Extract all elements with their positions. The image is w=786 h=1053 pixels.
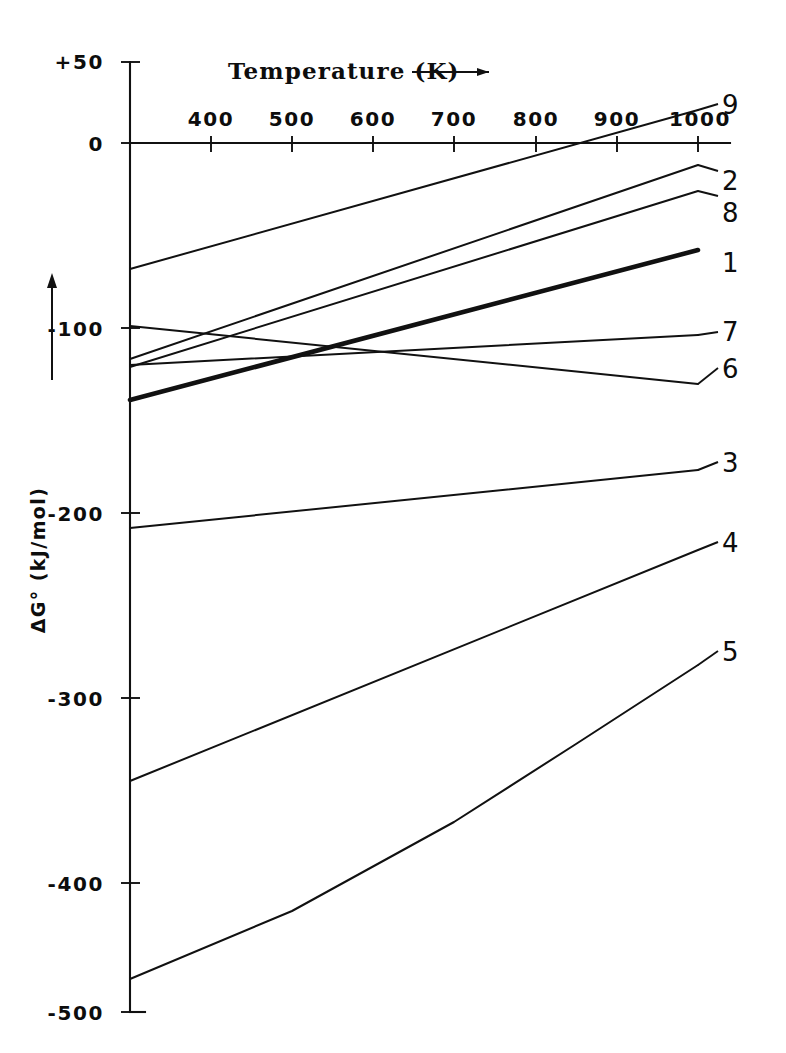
series-label-1: 1 (722, 248, 739, 278)
x-tick-label-4: 800 (513, 107, 560, 131)
series-label-4: 4 (722, 528, 739, 558)
series-label-3: 3 (722, 448, 739, 478)
curve-series-1 (130, 250, 698, 400)
y-tick-label-2: -100 (48, 317, 104, 341)
curve-series-8 (130, 191, 698, 367)
series-label-9: 9 (722, 90, 739, 120)
series-leader-lines (698, 104, 718, 665)
series-label-5: 5 (722, 637, 739, 667)
chart-title: Temperature (K) (228, 57, 460, 84)
x-tick-label-0: 400 (188, 107, 235, 131)
curve-series-4 (130, 550, 698, 781)
curve-series-2 (130, 165, 698, 359)
free-energy-diagram-figure: +50 0 -100 -200 -300 -400 -500 400 500 6… (0, 0, 786, 1053)
y-tick-label-3: -200 (48, 502, 104, 526)
y-tick-label-5: -400 (48, 872, 104, 896)
curve-series-9 (130, 110, 698, 269)
curve-series-3 (130, 470, 698, 528)
series-label-7: 7 (722, 317, 739, 347)
free-energy-plot: +50 0 -100 -200 -300 -400 -500 400 500 6… (0, 0, 786, 1053)
y-tick-label-6: -500 (48, 1001, 104, 1025)
series-label-6: 6 (722, 354, 739, 384)
y-tick-label-0: +50 (55, 50, 104, 74)
y-tick-label-4: -300 (48, 687, 104, 711)
series-label-8: 8 (722, 198, 739, 228)
x-tick-label-2: 600 (350, 107, 397, 131)
curve-series-7 (130, 335, 698, 365)
curve-series-5 (130, 665, 698, 979)
y-axis-label: ΔG° (kJ/mol) (27, 487, 49, 634)
x-tick-label-1: 500 (269, 107, 316, 131)
y-tick-label-1: 0 (88, 132, 104, 156)
series-label-2: 2 (722, 166, 739, 196)
x-tick-label-3: 700 (431, 107, 478, 131)
